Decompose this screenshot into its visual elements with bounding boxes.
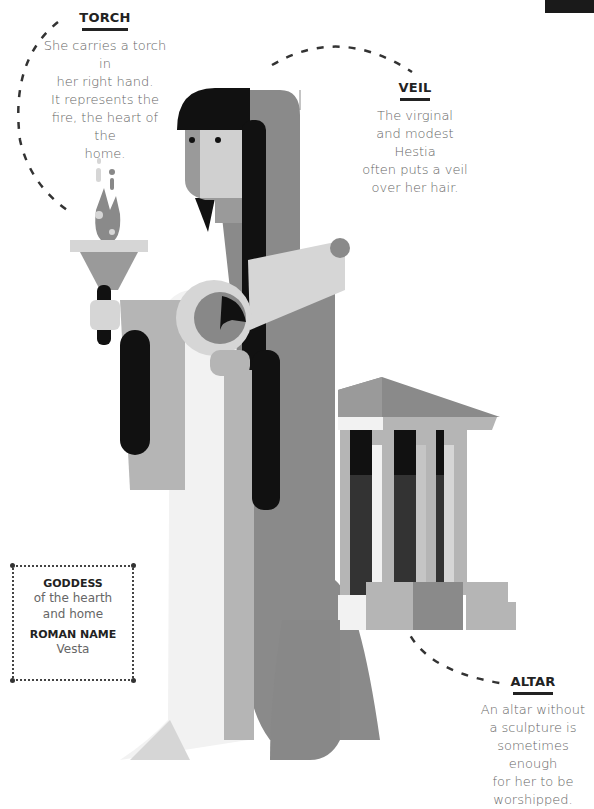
corner-dot [131, 563, 136, 568]
left-eye [189, 137, 195, 143]
veil-annotation: VEIL The virginal and modest Hestia ofte… [355, 80, 475, 197]
altar-heading: ALTAR [472, 674, 594, 689]
right-eye [215, 137, 221, 143]
altar-annotation: ALTAR An altar without a sculpture is so… [472, 674, 594, 809]
altar-description: An altar without a sculpture is sometime… [472, 701, 594, 809]
veil-heading-underline [400, 98, 430, 101]
veil-description: The virginal and modest Hestia often put… [355, 107, 475, 197]
goddess-label: GODDESS [14, 577, 132, 590]
altar-heading-underline [513, 692, 553, 695]
roman-name-label: ROMAN NAME [14, 628, 132, 641]
torch-annotation: TORCH She carries a torch in her right h… [40, 10, 170, 163]
left-hand [90, 300, 120, 330]
neck [215, 198, 242, 223]
roman-name-value: Vesta [14, 641, 132, 657]
veil-callout-line [272, 47, 412, 72]
torch-description: She carries a torch in her right hand. I… [40, 37, 170, 163]
torch-heading: TORCH [40, 10, 170, 25]
corner-dot [10, 678, 15, 683]
torch-heading-underline [82, 28, 128, 31]
torch-bowl [70, 240, 148, 252]
goddess-description: of the hearth and home [14, 590, 132, 622]
goddess-info-box: GODDESS of the hearth and home ROMAN NAM… [12, 565, 134, 681]
corner-dot [131, 678, 136, 683]
corner-dot [10, 563, 15, 568]
veil-heading: VEIL [355, 80, 475, 95]
